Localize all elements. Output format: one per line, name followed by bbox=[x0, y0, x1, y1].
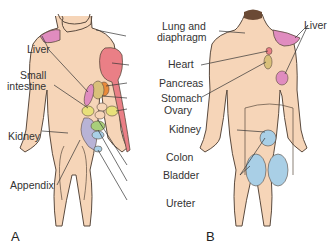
figure-a-body bbox=[20, 0, 130, 226]
label-bladder: Bladder bbox=[163, 170, 199, 181]
figure-a-letter: A bbox=[11, 229, 20, 244]
label-pancreas: Pancreas bbox=[159, 78, 203, 89]
label-small-intestine-line2: intestine bbox=[7, 81, 46, 92]
label-kidney-b: Kidney bbox=[169, 124, 201, 135]
label-ureter: Ureter bbox=[166, 198, 195, 209]
label-kidney-a: Kidney bbox=[8, 131, 40, 142]
label-lung-line2: diaphragm bbox=[157, 32, 207, 43]
label-liver-b: Liver bbox=[304, 20, 327, 31]
label-ovary: Ovary bbox=[164, 105, 192, 116]
label-liver-a: Liver bbox=[27, 44, 50, 55]
label-stomach: Stomach bbox=[161, 93, 202, 104]
figure-b-body bbox=[200, 10, 307, 227]
figure-b-letter: B bbox=[206, 229, 215, 244]
label-heart: Heart bbox=[168, 59, 194, 70]
label-colon: Colon bbox=[166, 152, 193, 163]
label-appendix: Appendix bbox=[10, 180, 54, 191]
